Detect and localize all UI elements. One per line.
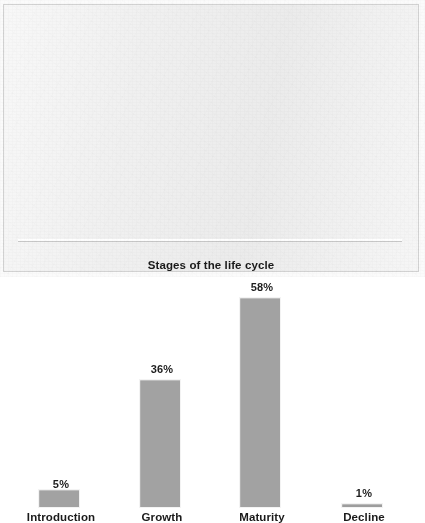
bar-slot-maturity: 58%	[217, 271, 307, 507]
category-label-maturity: Maturity	[217, 511, 307, 523]
bar-introduction[interactable]	[39, 490, 79, 507]
bar-value-growth: 36%	[117, 363, 207, 375]
category-label-growth: Growth	[117, 511, 207, 523]
chart-frame: 5% Introduction 36% Growth 58% Mat	[3, 4, 419, 272]
bar-maturity[interactable]	[240, 298, 280, 507]
bar-slot-introduction: 5%	[16, 271, 106, 507]
bar-slot-growth: 36%	[117, 271, 207, 507]
x-axis-title: Stages of the life cycle	[4, 259, 418, 271]
plot-area: 5% Introduction 36% Growth 58% Mat	[4, 5, 418, 271]
bar-value-introduction: 5%	[16, 478, 106, 490]
category-label-introduction: Introduction	[16, 511, 106, 523]
category-label-decline: Decline	[319, 511, 409, 523]
category-axis-line	[18, 239, 402, 241]
bar-growth[interactable]	[140, 380, 180, 507]
bar-slot-decline: 1%	[319, 271, 409, 507]
bar-value-decline: 1%	[319, 487, 409, 499]
bar-value-maturity: 58%	[217, 281, 307, 293]
bar-decline[interactable]	[342, 504, 382, 507]
